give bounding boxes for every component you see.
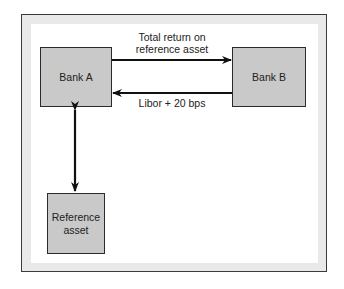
arrows-layer xyxy=(0,0,344,289)
